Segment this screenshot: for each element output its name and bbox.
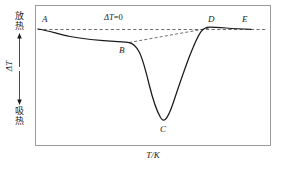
point-label-e: E [242,14,248,24]
baseline-zero-value: =0 [114,12,123,22]
x-axis-title: T/K [35,150,271,160]
curve-canvas [0,0,282,171]
point-label-c: C [160,124,166,134]
y-axis-title: ΔT [4,49,14,83]
dta-curve-path [38,27,251,120]
point-label-b: B [119,45,125,55]
baseline-zero-annotation: ΔT=0 [104,12,123,22]
dta-curve-figure: 放热 ΔT 吸热 T/K ΔT=0 A B C D E [0,0,282,171]
point-label-a: A [42,14,48,24]
exothermic-arrow-up-icon [17,33,22,67]
y-axis-group: 放热 ΔT 吸热 [0,5,35,146]
interpolated-baseline-bd [129,28,210,43]
y-axis-endothermic-label: 吸热 [13,107,25,126]
baseline-zero-symbol: ΔT [104,12,114,22]
y-axis-exothermic-label: 放热 [13,12,25,31]
endothermic-arrow-down-icon [17,71,22,105]
point-label-d: D [208,14,215,24]
y-axis-endothermic-char-1: 吸热 [13,107,25,126]
y-axis-exothermic-char-1: 放热 [13,12,25,31]
